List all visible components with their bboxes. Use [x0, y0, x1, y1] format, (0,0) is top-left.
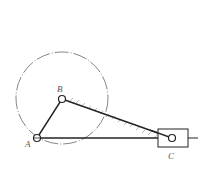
label-a: A	[24, 139, 31, 149]
slider-crank-diagram: A B C	[0, 0, 215, 179]
joint-b	[59, 96, 66, 103]
label-c: C	[168, 151, 175, 161]
label-b: B	[57, 84, 63, 94]
joint-c	[169, 135, 176, 142]
link-ab	[37, 99, 62, 138]
